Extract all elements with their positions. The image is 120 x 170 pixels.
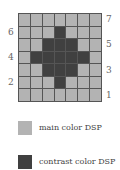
cell-main [90,14,101,26]
cell-main [66,89,77,101]
cell-main [19,77,30,89]
cell-main [19,27,30,39]
row-label-7: 7 [106,15,112,24]
cell-main [78,14,89,26]
legend-swatch-contrast [18,155,32,169]
cell-contrast [55,52,66,64]
cell-main [31,89,42,101]
cell-main [19,14,30,26]
cell-main [55,89,66,101]
cell-main [19,39,30,51]
row-label-3: 3 [106,66,112,75]
cell-main [31,27,42,39]
cell-main [19,89,30,101]
cell-main [66,77,77,89]
legend-swatch-main [18,121,32,135]
cell-main [90,52,101,64]
row-label-5: 5 [106,40,112,49]
cell-main [31,64,42,76]
cell-contrast [78,52,89,64]
legend-label-contrast: contrast color DSP [39,157,115,166]
row-label-2: 2 [8,78,14,87]
cell-main [90,77,101,89]
cell-main [43,27,54,39]
cell-main [55,14,66,26]
row-label-6: 6 [8,28,14,37]
legend-label-main: main color DSP [39,123,102,132]
row-label-1: 1 [106,91,112,100]
cell-contrast [55,27,66,39]
cell-contrast [55,64,66,76]
cell-main [31,77,42,89]
cell-main [66,14,77,26]
cell-contrast [66,39,77,51]
cell-contrast [31,52,42,64]
cell-main [43,14,54,26]
cell-contrast [55,77,66,89]
cell-main [78,39,89,51]
cell-contrast [66,52,77,64]
cell-contrast [43,52,54,64]
cell-main [78,27,89,39]
cell-main [31,39,42,51]
cell-main [43,77,54,89]
chart-grid [18,13,102,102]
cell-main [90,39,101,51]
cell-contrast [66,64,77,76]
cell-main [78,77,89,89]
cell-main [19,64,30,76]
cell-main [90,27,101,39]
cell-main [78,89,89,101]
cell-main [90,89,101,101]
cell-main [19,52,30,64]
cell-contrast [55,39,66,51]
cell-main [78,64,89,76]
row-label-4: 4 [8,53,14,62]
cell-main [66,27,77,39]
cell-main [31,14,42,26]
cell-main [90,64,101,76]
cell-contrast [43,39,54,51]
cell-main [43,89,54,101]
cell-contrast [43,64,54,76]
